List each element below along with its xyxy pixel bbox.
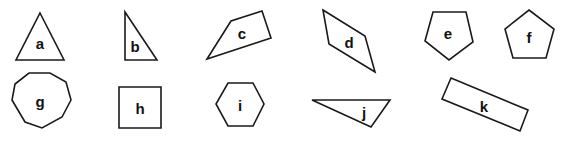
shape-label: j [361, 104, 366, 121]
shape-label: a [36, 35, 45, 52]
shape-label: g [35, 93, 44, 110]
shape-f: f [505, 10, 554, 58]
shape-label: d [344, 34, 353, 51]
shape-k: k [442, 78, 528, 131]
scalene-triangle-outline [312, 100, 390, 127]
shape-i: i [216, 83, 264, 126]
shape-j: j [312, 100, 390, 127]
shape-g: g [12, 73, 71, 128]
shapes-diagram: abcdefghijk [0, 0, 571, 142]
shape-e: e [425, 12, 473, 60]
shape-h: h [119, 87, 161, 128]
shape-label: b [130, 38, 139, 55]
shape-label: k [480, 98, 489, 115]
shape-label: c [238, 25, 246, 42]
shape-c: c [207, 11, 271, 59]
shape-a: a [16, 13, 64, 60]
shape-label: e [444, 25, 452, 42]
shape-label: i [238, 97, 242, 114]
shape-label: h [135, 100, 144, 117]
shape-b: b [125, 12, 157, 60]
shape-d: d [323, 10, 375, 72]
